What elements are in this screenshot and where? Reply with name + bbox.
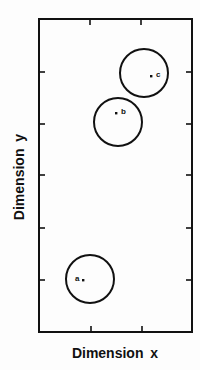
plot-frame	[39, 19, 192, 332]
circle-a	[66, 255, 114, 303]
circle-c	[120, 49, 168, 97]
point-label-b: b	[121, 107, 126, 116]
point-label-c: c	[156, 70, 161, 79]
y-axis-label: Dimension y	[11, 134, 27, 220]
point-group-c: c	[120, 49, 168, 97]
point-group-b: b	[94, 98, 142, 146]
point-group-a: a	[66, 255, 114, 303]
x-axis-label: Dimension x	[72, 345, 158, 361]
diagram-canvas: a b c Dimension x Dimension y	[0, 0, 200, 370]
circle-b	[94, 98, 142, 146]
point-dot-a	[82, 279, 84, 281]
point-label-a: a	[75, 274, 80, 283]
point-dot-b	[115, 112, 117, 114]
point-dot-c	[150, 75, 152, 77]
